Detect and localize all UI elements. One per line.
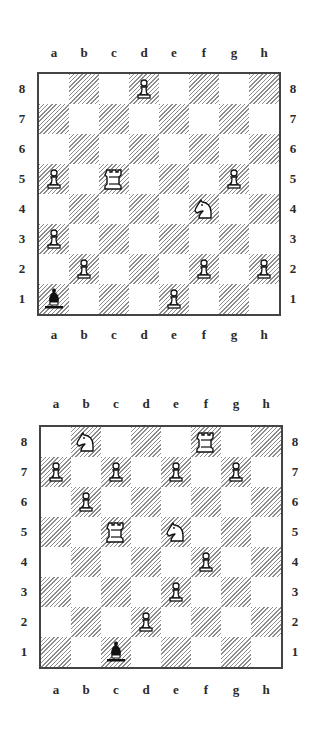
chess-board (39, 425, 283, 669)
rank-label: 4 (14, 194, 30, 224)
file-label: a (39, 327, 69, 343)
square-b5 (69, 164, 99, 194)
file-label: e (159, 45, 189, 61)
white-pawn-icon (192, 257, 216, 281)
white-rook-icon (194, 430, 218, 454)
square-c5 (99, 164, 129, 194)
square-b7 (69, 104, 99, 134)
black-bishop-icon (104, 640, 128, 664)
square-e1 (159, 284, 189, 314)
white-pawn-icon (164, 580, 188, 604)
square-c4 (99, 194, 129, 224)
file-label: b (69, 45, 99, 61)
square-d3 (131, 577, 161, 607)
square-b8 (71, 427, 101, 457)
square-c1 (101, 637, 131, 667)
square-f5 (191, 517, 221, 547)
square-a1 (39, 284, 69, 314)
white-pawn-icon (162, 287, 186, 311)
file-label: f (191, 396, 221, 412)
rank-label: 4 (285, 194, 301, 224)
square-g4 (219, 194, 249, 224)
white-knight-icon (74, 430, 98, 454)
square-h1 (249, 284, 279, 314)
square-c8 (99, 74, 129, 104)
square-d4 (131, 547, 161, 577)
square-a4 (39, 194, 69, 224)
white-pawn-icon (194, 550, 218, 574)
file-labels-top: a b c d e f g h (39, 45, 279, 61)
square-g6 (219, 134, 249, 164)
square-h3 (251, 577, 281, 607)
rank-label: 2 (287, 607, 303, 637)
square-f1 (189, 284, 219, 314)
rank-label: 1 (14, 284, 30, 314)
square-c4 (101, 547, 131, 577)
rank-label: 5 (285, 164, 301, 194)
square-c2 (101, 607, 131, 637)
square-h2 (249, 254, 279, 284)
square-e3 (161, 577, 191, 607)
file-label: h (249, 327, 279, 343)
square-h1 (251, 637, 281, 667)
square-a2 (39, 254, 69, 284)
file-label: a (41, 682, 71, 698)
black-bishop-icon (42, 287, 66, 311)
rank-label: 3 (14, 224, 30, 254)
square-g1 (219, 284, 249, 314)
file-label: g (221, 396, 251, 412)
rank-label: 7 (16, 457, 32, 487)
square-c5 (101, 517, 131, 547)
square-f8 (191, 427, 221, 457)
file-label: h (251, 396, 281, 412)
square-b3 (71, 577, 101, 607)
rank-label: 1 (287, 637, 303, 667)
rank-label: 5 (16, 517, 32, 547)
rank-label: 4 (287, 547, 303, 577)
square-h4 (249, 194, 279, 224)
file-labels-bottom: a b c d e f g h (39, 327, 279, 343)
file-label: b (71, 682, 101, 698)
square-e5 (159, 164, 189, 194)
rank-label: 5 (287, 517, 303, 547)
rank-label: 6 (285, 134, 301, 164)
file-label: g (221, 682, 251, 698)
square-g3 (221, 577, 251, 607)
square-c3 (99, 224, 129, 254)
square-h5 (251, 517, 281, 547)
rank-labels-left: 8 7 6 5 4 3 2 1 (14, 74, 30, 314)
square-h3 (249, 224, 279, 254)
square-g8 (221, 427, 251, 457)
square-h5 (249, 164, 279, 194)
square-f2 (191, 607, 221, 637)
file-label: d (129, 327, 159, 343)
square-f6 (191, 487, 221, 517)
square-f7 (189, 104, 219, 134)
square-e2 (159, 254, 189, 284)
square-g5 (221, 517, 251, 547)
rank-label: 2 (285, 254, 301, 284)
square-b2 (69, 254, 99, 284)
square-d2 (129, 254, 159, 284)
square-b5 (71, 517, 101, 547)
square-e4 (161, 547, 191, 577)
white-knight-icon (164, 520, 188, 544)
square-e6 (159, 134, 189, 164)
square-c3 (101, 577, 131, 607)
white-pawn-icon (132, 77, 156, 101)
file-label: f (191, 682, 221, 698)
rank-label: 8 (285, 74, 301, 104)
square-g2 (219, 254, 249, 284)
square-f2 (189, 254, 219, 284)
square-g7 (221, 457, 251, 487)
square-c6 (99, 134, 129, 164)
square-b1 (69, 284, 99, 314)
rank-label: 1 (285, 284, 301, 314)
file-label: h (251, 682, 281, 698)
file-label: e (161, 396, 191, 412)
square-h7 (251, 457, 281, 487)
rank-label: 5 (14, 164, 30, 194)
file-label: c (101, 396, 131, 412)
square-g6 (221, 487, 251, 517)
square-a5 (41, 517, 71, 547)
